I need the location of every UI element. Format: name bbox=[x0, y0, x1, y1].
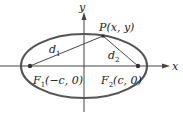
focus-f1-label: F1(−c, 0) bbox=[32, 74, 83, 89]
point-p-label: P(x, y) bbox=[98, 21, 134, 34]
y-axis-label: y bbox=[78, 1, 86, 14]
ellipse-diagram: x y P(x, y) d1 d2 F1(−c, 0) F2(c, 0) bbox=[0, 0, 183, 125]
x-axis-label: x bbox=[172, 60, 179, 73]
point-p bbox=[101, 34, 105, 38]
d1-label: d1 bbox=[49, 43, 61, 58]
segment-d1 bbox=[30, 36, 103, 66]
focus-f2-point bbox=[136, 64, 140, 68]
d2-label: d2 bbox=[108, 49, 120, 64]
focus-f2-label: F2(c, 0) bbox=[100, 74, 142, 89]
x-axis-arrow-icon bbox=[162, 64, 170, 69]
focus-f1-point bbox=[28, 64, 32, 68]
